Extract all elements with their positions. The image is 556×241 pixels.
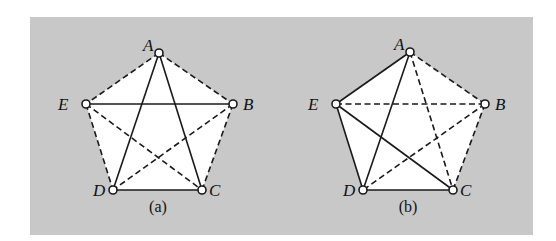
node-label-e: E: [307, 95, 319, 114]
node-label-a: A: [142, 36, 154, 55]
node-label-d: D: [92, 181, 106, 200]
node-label-b: B: [243, 95, 254, 114]
node-label-b: B: [495, 95, 506, 114]
node-label-c: C: [209, 181, 221, 200]
caption-b: (b): [399, 198, 418, 216]
node-label-a: A: [393, 35, 405, 54]
node-e: [332, 100, 340, 108]
node-e: [82, 100, 90, 108]
node-b: [481, 100, 489, 108]
node-label-d: D: [342, 181, 356, 200]
node-b: [229, 100, 237, 108]
node-c: [198, 186, 206, 194]
caption-a: (a): [149, 198, 167, 216]
node-label-e: E: [57, 95, 69, 114]
node-d: [359, 186, 367, 194]
node-a: [155, 49, 163, 57]
node-a: [406, 48, 414, 56]
graph-figure: ABCDE(a) ABCDE(b): [0, 0, 556, 241]
node-c: [449, 186, 457, 194]
node-label-c: C: [460, 181, 472, 200]
node-d: [109, 186, 117, 194]
